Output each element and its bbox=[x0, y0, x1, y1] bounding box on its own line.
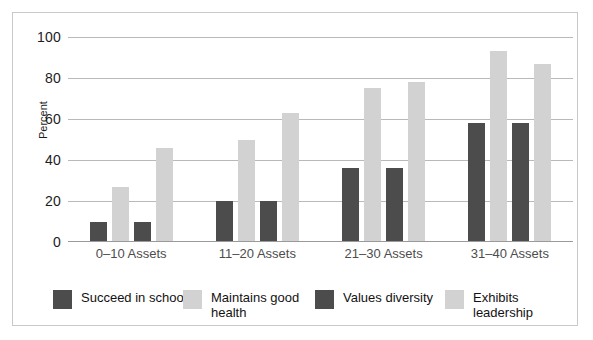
bar bbox=[90, 222, 107, 243]
bar-group bbox=[194, 37, 320, 242]
legend-swatch bbox=[183, 290, 202, 309]
x-axis-category-labels: 0–10 Assets11–20 Assets21–30 Assets31–40… bbox=[68, 246, 573, 268]
x-axis-category-label: 21–30 Assets bbox=[345, 246, 423, 261]
bar bbox=[134, 222, 151, 243]
chart-frame: Percent 020406080100 0–10 Assets11–20 As… bbox=[12, 12, 578, 326]
bar-group bbox=[321, 37, 447, 242]
y-axis-tick-label: 60 bbox=[45, 111, 61, 127]
y-axis-tick-labels: 020406080100 bbox=[13, 37, 61, 242]
bar bbox=[408, 82, 425, 242]
legend-label: Values diversity bbox=[343, 290, 433, 305]
x-axis-category-label: 11–20 Assets bbox=[219, 246, 296, 261]
bar bbox=[468, 123, 485, 242]
legend-item[interactable]: Maintains good health bbox=[183, 290, 319, 320]
legend-swatch bbox=[53, 290, 72, 309]
legend-item[interactable]: Succeed in school bbox=[53, 290, 187, 309]
y-axis-tick-label: 0 bbox=[53, 234, 61, 250]
bar bbox=[490, 51, 507, 242]
bar bbox=[512, 123, 529, 242]
bar bbox=[260, 201, 277, 242]
legend-swatch bbox=[445, 290, 464, 309]
bar bbox=[238, 140, 255, 243]
x-axis-category-label: 0–10 Assets bbox=[96, 246, 167, 261]
legend-label: Maintains good health bbox=[211, 290, 319, 320]
bar bbox=[216, 201, 233, 242]
chart-legend: Succeed in schoolMaintains good healthVa… bbox=[53, 290, 573, 330]
legend-item[interactable]: Values diversity bbox=[315, 290, 433, 309]
y-axis-tick-label: 80 bbox=[45, 70, 61, 86]
bar bbox=[364, 88, 381, 242]
bar bbox=[282, 113, 299, 242]
bar bbox=[156, 148, 173, 242]
x-axis-baseline bbox=[68, 241, 573, 242]
bar bbox=[342, 168, 359, 242]
legend-swatch bbox=[315, 290, 334, 309]
y-axis-tick-label: 20 bbox=[45, 193, 61, 209]
x-axis-category-label: 31–40 Assets bbox=[471, 246, 549, 261]
bar-group bbox=[68, 37, 194, 242]
y-axis-tick-label: 100 bbox=[37, 29, 61, 45]
bar bbox=[112, 187, 129, 242]
bar bbox=[534, 64, 551, 242]
plot-area bbox=[68, 37, 573, 242]
bar bbox=[386, 168, 403, 242]
legend-item[interactable]: Exhibits leadership bbox=[445, 290, 573, 320]
legend-label: Exhibits leadership bbox=[473, 290, 573, 320]
legend-label: Succeed in school bbox=[81, 290, 187, 305]
y-axis-tick-label: 40 bbox=[45, 152, 61, 168]
bar-group bbox=[447, 37, 573, 242]
